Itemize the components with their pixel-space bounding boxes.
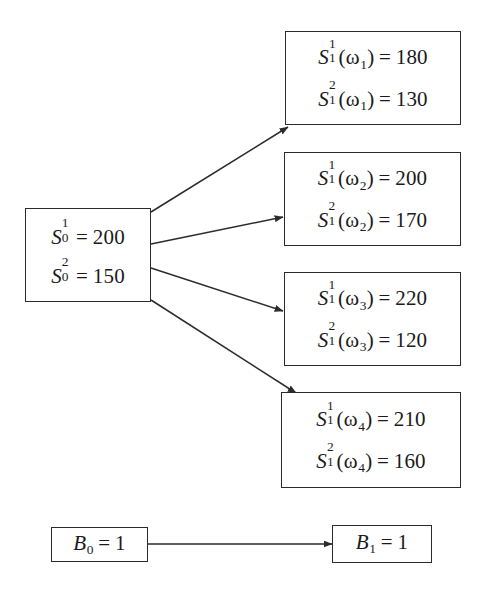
math-equals: = bbox=[76, 225, 88, 249]
math-value: 200 bbox=[93, 225, 125, 249]
math-omega-index: 2 bbox=[360, 178, 367, 193]
math-value: 170 bbox=[395, 208, 427, 232]
math-subscript: 0 bbox=[62, 231, 69, 244]
math-superscript: 2 bbox=[327, 440, 334, 453]
edge-root-to-omega-4 bbox=[151, 300, 296, 393]
math-omega: ω bbox=[344, 407, 358, 431]
math-equals: = bbox=[377, 407, 389, 431]
math-subscript: 1 bbox=[328, 214, 335, 227]
node-state-omega-3: S11(ω3)=220 S21(ω3)=120 bbox=[284, 272, 461, 366]
math-paren-close: ) bbox=[367, 328, 374, 352]
math-paren-close: ) bbox=[367, 208, 374, 232]
math-subscript: 0 bbox=[87, 542, 94, 557]
math-value: 130 bbox=[396, 87, 428, 111]
math-paren-open: ( bbox=[337, 407, 344, 431]
math-value: 1 bbox=[398, 530, 409, 554]
math-paren-open: ( bbox=[337, 449, 344, 473]
math-symbol: S bbox=[318, 286, 329, 310]
math-paren-open: ( bbox=[339, 87, 346, 111]
node-line: S10=200 bbox=[51, 223, 125, 248]
math-value: 120 bbox=[395, 328, 427, 352]
edge-root-to-omega-2 bbox=[151, 217, 283, 244]
math-supsub: 11 bbox=[328, 164, 338, 185]
math-paren-close: ) bbox=[367, 87, 374, 111]
math-value: 150 bbox=[93, 264, 125, 288]
math-omega: ω bbox=[346, 87, 360, 111]
math-symbol: S bbox=[318, 208, 329, 232]
math-supsub: 21 bbox=[328, 326, 338, 347]
math-subscript: 1 bbox=[369, 541, 376, 556]
math-omega-index: 3 bbox=[360, 339, 367, 354]
math-supsub: 10 bbox=[62, 223, 72, 244]
math-symbol: S bbox=[318, 166, 329, 190]
math-value: 160 bbox=[394, 449, 426, 473]
math-value: 200 bbox=[395, 166, 427, 190]
math-subscript: 1 bbox=[329, 93, 336, 106]
math-superscript: 1 bbox=[329, 37, 336, 50]
math-symbol: S bbox=[316, 407, 327, 431]
node-state-omega-4: S11(ω4)=210 S21(ω4)=160 bbox=[281, 392, 461, 488]
edge-root-to-omega-1 bbox=[151, 127, 288, 212]
node-line: S11(ω4)=210 bbox=[316, 405, 426, 433]
node-line: S11(ω1)=180 bbox=[318, 43, 428, 71]
math-subscript: 1 bbox=[327, 413, 334, 426]
math-paren-close: ) bbox=[367, 166, 374, 190]
math-superscript: 2 bbox=[328, 319, 335, 332]
math-omega: ω bbox=[344, 449, 358, 473]
math-supsub: 11 bbox=[327, 405, 337, 426]
node-bond-terminal: B1=1 bbox=[332, 525, 432, 563]
node-line: S21(ω3)=120 bbox=[318, 326, 428, 354]
math-equals: = bbox=[379, 286, 391, 310]
math-symbol: S bbox=[318, 328, 329, 352]
math-value: 180 bbox=[396, 45, 428, 69]
math-omega-index: 2 bbox=[360, 219, 367, 234]
math-superscript: 2 bbox=[62, 255, 69, 268]
node-line: S21(ω1)=130 bbox=[318, 85, 428, 113]
node-line: S21(ω2)=170 bbox=[318, 206, 428, 234]
math-symbol: S bbox=[318, 87, 329, 111]
node-bond-initial: B0=1 bbox=[51, 527, 148, 562]
math-equals: = bbox=[381, 530, 393, 554]
math-paren-close: ) bbox=[365, 449, 372, 473]
math-subscript: 1 bbox=[327, 455, 334, 468]
math-superscript: 1 bbox=[328, 278, 335, 291]
math-superscript: 1 bbox=[328, 158, 335, 171]
node-line: S11(ω2)=200 bbox=[318, 164, 428, 192]
math-superscript: 1 bbox=[327, 399, 334, 412]
math-symbol: S bbox=[316, 449, 327, 473]
math-omega: ω bbox=[345, 166, 359, 190]
math-equals: = bbox=[98, 531, 110, 555]
math-value: 210 bbox=[394, 407, 426, 431]
math-supsub: 21 bbox=[328, 206, 338, 227]
math-paren-close: ) bbox=[367, 45, 374, 69]
math-symbol: S bbox=[51, 264, 62, 288]
math-omega: ω bbox=[345, 328, 359, 352]
math-superscript: 2 bbox=[328, 199, 335, 212]
diagram-canvas: S10=200 S20=150 S11(ω1)=180 S21(ω1)=130 … bbox=[0, 0, 484, 600]
math-equals: = bbox=[379, 208, 391, 232]
math-paren-close: ) bbox=[365, 407, 372, 431]
math-equals: = bbox=[379, 166, 391, 190]
math-equals: = bbox=[76, 264, 88, 288]
math-omega-index: 3 bbox=[360, 298, 367, 313]
math-omega: ω bbox=[345, 208, 359, 232]
node-line: S21(ω4)=160 bbox=[316, 447, 426, 475]
math-omega: ω bbox=[346, 45, 360, 69]
math-omega: ω bbox=[345, 286, 359, 310]
math-equals: = bbox=[379, 328, 391, 352]
math-superscript: 2 bbox=[329, 78, 336, 91]
edge-root-to-omega-3 bbox=[151, 268, 283, 311]
math-supsub: 21 bbox=[329, 85, 339, 106]
math-subscript: 1 bbox=[328, 172, 335, 185]
math-value: 1 bbox=[115, 531, 126, 555]
math-symbol: B bbox=[356, 530, 369, 554]
node-line: B1=1 bbox=[356, 532, 408, 556]
math-subscript: 1 bbox=[329, 51, 336, 64]
math-paren-open: ( bbox=[339, 45, 346, 69]
node-line: S11(ω3)=220 bbox=[318, 284, 428, 312]
math-symbol: S bbox=[51, 225, 62, 249]
math-equals: = bbox=[379, 87, 391, 111]
math-paren-close: ) bbox=[367, 286, 374, 310]
node-line: S20=150 bbox=[51, 262, 125, 287]
math-supsub: 21 bbox=[327, 447, 337, 468]
